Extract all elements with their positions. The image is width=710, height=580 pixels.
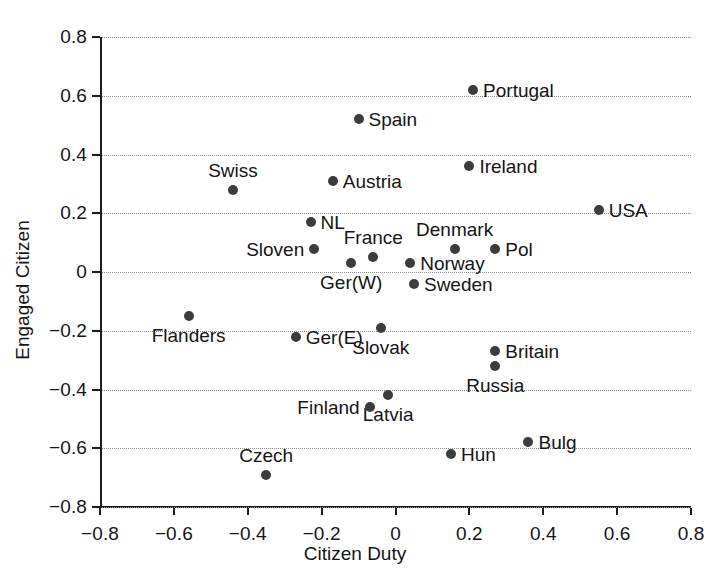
x-axis-tick-label: 0.6 <box>604 523 631 545</box>
gridline-horizontal <box>102 213 691 215</box>
x-axis-title: Citizen Duty <box>0 543 710 565</box>
x-axis-tick <box>468 508 470 515</box>
data-point[interactable] <box>184 311 194 321</box>
y-axis-tick <box>92 271 100 273</box>
y-axis-tick-label: 0.2 <box>60 202 87 224</box>
data-point[interactable] <box>306 217 316 227</box>
x-axis-tick <box>321 508 323 515</box>
y-axis-tick <box>92 95 100 97</box>
x-axis-tick <box>690 508 692 515</box>
x-axis-tick-label: 0.2 <box>456 523 483 545</box>
gridline-horizontal <box>102 37 691 39</box>
x-axis-tick-label: −0.8 <box>81 523 119 545</box>
data-point-label: France <box>344 228 403 247</box>
y-axis-title-text: Engaged Citizen <box>12 220 34 359</box>
x-axis-tick <box>99 508 101 515</box>
data-point-label: Norway <box>420 254 484 273</box>
data-point[interactable] <box>464 161 474 171</box>
data-point[interactable] <box>409 279 419 289</box>
data-point[interactable] <box>368 252 378 262</box>
y-axis-tick-label: −0.6 <box>49 437 87 459</box>
data-point[interactable] <box>228 185 238 195</box>
y-axis-tick <box>92 36 100 38</box>
data-point[interactable] <box>405 258 415 268</box>
gridline-horizontal <box>102 507 691 509</box>
y-axis-tick <box>92 389 100 391</box>
data-point-label: Ger(W) <box>320 273 382 292</box>
x-axis-tick <box>173 508 175 515</box>
data-point[interactable] <box>523 437 533 447</box>
data-point-label: Sweden <box>424 274 493 293</box>
y-axis-tick-label: 0.4 <box>60 144 87 166</box>
y-axis-title: Engaged Citizen <box>10 0 36 580</box>
y-axis-tick-label: 0 <box>76 261 87 283</box>
data-point-label: Pol <box>505 239 532 258</box>
x-axis-tick-label: 0 <box>390 523 401 545</box>
gridline-horizontal <box>102 272 691 274</box>
data-point[interactable] <box>328 176 338 186</box>
data-point[interactable] <box>468 85 478 95</box>
y-axis-tick <box>92 447 100 449</box>
data-point[interactable] <box>383 390 393 400</box>
y-axis-tick-label: 0.8 <box>60 26 87 48</box>
data-point-label: Austria <box>343 171 402 190</box>
data-point-label: Portugal <box>483 80 554 99</box>
data-point-label: Ireland <box>479 157 537 176</box>
data-point[interactable] <box>490 346 500 356</box>
x-axis-tick-label: −0.2 <box>303 523 341 545</box>
data-point-label: Bulg <box>538 433 576 452</box>
data-point[interactable] <box>376 323 386 333</box>
y-axis-tick-label: −0.2 <box>49 320 87 342</box>
y-axis-tick-label: 0.6 <box>60 85 87 107</box>
x-axis-tick-label: −0.4 <box>229 523 267 545</box>
scatter-plot-figure: Engaged Citizen 0.80.60.40.20−0.2−0.4−0.… <box>0 0 710 580</box>
data-point-label: USA <box>609 201 648 220</box>
data-point[interactable] <box>446 449 456 459</box>
x-axis-tick <box>395 508 397 515</box>
x-axis-tick-label: 0.8 <box>678 523 705 545</box>
data-point[interactable] <box>594 205 604 215</box>
data-point[interactable] <box>346 258 356 268</box>
data-point[interactable] <box>291 332 301 342</box>
data-point-label: Slovak <box>352 338 409 357</box>
data-point-label: Flanders <box>152 326 226 345</box>
y-axis-tick <box>92 154 100 156</box>
data-point[interactable] <box>354 114 364 124</box>
data-point-label: Swiss <box>208 161 258 180</box>
x-axis-tick <box>542 508 544 515</box>
gridline-horizontal <box>102 390 691 392</box>
x-axis-tick-label: 0.4 <box>530 523 557 545</box>
gridline-horizontal <box>102 448 691 450</box>
data-point-label: Czech <box>239 446 293 465</box>
x-axis-tick <box>247 508 249 515</box>
y-axis-tick-label: −0.4 <box>49 379 87 401</box>
x-axis-tick-label: −0.6 <box>155 523 193 545</box>
data-point-label: Spain <box>369 110 418 129</box>
data-point[interactable] <box>309 244 319 254</box>
data-point-label: Britain <box>505 342 559 361</box>
gridline-horizontal <box>102 96 691 98</box>
y-axis-tick <box>92 212 100 214</box>
data-point-label: Hun <box>461 445 496 464</box>
data-point-label: Finland <box>297 398 359 417</box>
plot-area: 0.80.60.40.20−0.2−0.4−0.6−0.8 −0.8−0.6−0… <box>100 37 691 507</box>
y-axis-tick-label: −0.8 <box>49 496 87 518</box>
data-point-label: Sloven <box>246 239 304 258</box>
data-point[interactable] <box>490 361 500 371</box>
y-axis-tick <box>92 330 100 332</box>
data-point-label: Denmark <box>416 220 493 239</box>
gridline-horizontal <box>102 155 691 157</box>
data-point[interactable] <box>365 402 375 412</box>
data-point-label: NL <box>321 213 345 232</box>
data-point-label: Russia <box>466 376 524 395</box>
x-axis-tick <box>616 508 618 515</box>
data-point[interactable] <box>490 244 500 254</box>
data-point[interactable] <box>261 470 271 480</box>
